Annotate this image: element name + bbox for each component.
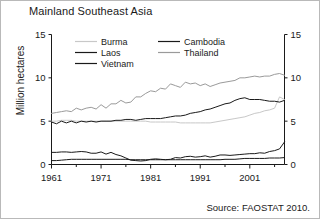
legend-label-laos: Laos [101,48,121,58]
x-tick-label: 1971 [91,172,112,183]
series-line-thailand [52,74,285,114]
y-tick-label-right: 10 [291,72,302,83]
legend-label-burma: Burma [101,37,128,47]
x-tick-label: 1991 [190,172,211,183]
x-tick-label: 1961 [41,172,62,183]
legend-label-thailand: Thailand [184,48,219,58]
series-line-burma [52,97,285,123]
y-tick-label-left: 0 [40,159,45,170]
x-tick-label: 1981 [140,172,161,183]
legend-layer: BurmaLaosVietnamCambodiaThailand [75,37,225,69]
source-note: Source: FAOSTAT 2010. [207,202,311,213]
chart-figure: Mainland Southeast Asia Million hectares… [0,0,320,219]
line-chart-plot: 05101505101519611971198119912001 BurmaLa… [1,1,320,219]
legend-label-vietnam: Vietnam [101,59,134,69]
y-tick-label-left: 10 [35,72,46,83]
series-line-vietnam [52,98,285,124]
y-tick-label-right: 0 [291,159,296,170]
y-tick-label-right: 15 [291,29,302,40]
x-tick-label: 2001 [239,172,260,183]
series-layer [52,74,285,162]
legend-label-cambodia: Cambodia [184,37,225,47]
y-tick-label-left: 15 [35,29,46,40]
y-tick-label-right: 5 [291,116,296,127]
y-tick-label-left: 5 [40,116,45,127]
